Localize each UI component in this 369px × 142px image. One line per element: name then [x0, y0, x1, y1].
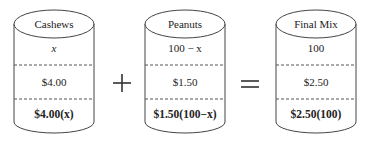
- container-name: Cashews: [13, 18, 95, 31]
- container-peanuts: Peanuts 100 − x $1.50 $1.50(100−x): [144, 0, 226, 142]
- equals-operator: [239, 76, 261, 92]
- container-value: $1.50(100−x): [144, 108, 226, 121]
- plus-icon: [111, 72, 133, 94]
- container-price: $2.50: [275, 76, 357, 89]
- container-price: $4.00: [13, 76, 95, 89]
- plus-operator: [111, 72, 133, 94]
- container-amount: 100 − x: [144, 42, 226, 55]
- container-cashews: Cashews x $4.00 $4.00(x): [13, 0, 95, 142]
- container-price: $1.50: [144, 76, 226, 89]
- container-name: Peanuts: [144, 18, 226, 31]
- container-value: $4.00(x): [13, 108, 95, 121]
- container-value: $2.50(100): [275, 108, 357, 121]
- equals-icon: [239, 76, 261, 92]
- container-amount: x: [13, 42, 95, 55]
- container-final-mix: Final Mix 100 $2.50 $2.50(100): [275, 0, 357, 142]
- container-name: Final Mix: [275, 18, 357, 31]
- container-amount: 100: [275, 42, 357, 55]
